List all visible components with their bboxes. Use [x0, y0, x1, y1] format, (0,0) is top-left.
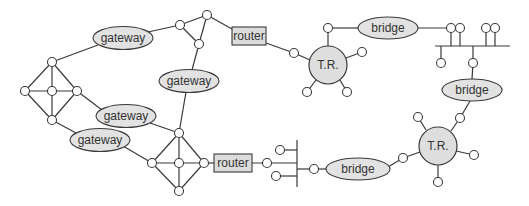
station [456, 114, 465, 123]
gateway-mid-left-label: gateway [104, 109, 149, 123]
station [399, 154, 408, 163]
node [48, 87, 57, 96]
bridge-top: bridge [358, 17, 418, 39]
token-ring-top-label: T.R. [317, 58, 338, 72]
gateway-mid-left: gateway [96, 105, 156, 128]
station [469, 59, 478, 68]
node [48, 58, 57, 67]
triangle-top [176, 11, 212, 49]
station [324, 24, 333, 33]
gateway-middle-label: gateway [167, 74, 212, 88]
gateway-middle: gateway [159, 70, 219, 93]
node [148, 159, 157, 168]
node [195, 40, 204, 49]
bridge-right-label: bridge [455, 83, 489, 97]
gateway-top-label: gateway [101, 31, 146, 45]
router-top-label: router [233, 29, 264, 43]
router-bottom: router [214, 154, 252, 172]
node [73, 87, 82, 96]
gateway-lower-left: gateway [70, 129, 130, 152]
router-bottom-label: router [217, 156, 248, 170]
bridge-top-label: bridge [371, 21, 405, 35]
station [414, 113, 423, 122]
station [437, 59, 446, 68]
station [272, 172, 281, 181]
token-ring-bottom-label: T.R. [427, 139, 448, 153]
node [176, 21, 185, 30]
node [175, 159, 184, 168]
mesh-left [21, 58, 82, 125]
station [434, 178, 443, 187]
station [290, 49, 299, 58]
station [491, 24, 500, 33]
node [48, 116, 57, 125]
node [200, 159, 209, 168]
router-top: router [232, 27, 266, 45]
station [303, 88, 312, 97]
gateway-lower-left-label: gateway [78, 133, 123, 147]
node [175, 129, 184, 138]
station [263, 159, 272, 168]
station [310, 165, 319, 174]
station [470, 151, 479, 160]
node [21, 87, 30, 96]
gateway-top: gateway [93, 27, 153, 50]
station [358, 48, 367, 57]
station [456, 24, 465, 33]
station [276, 146, 285, 155]
mesh-bottom [148, 129, 209, 196]
station [482, 24, 491, 33]
station [343, 88, 352, 97]
bridge-bottom: bridge [326, 158, 390, 180]
station [447, 24, 456, 33]
bridge-bottom-label: bridge [341, 162, 375, 176]
network-diagram: gateway gateway gateway gateway router r… [0, 0, 529, 206]
bridge-right: bridge [442, 79, 502, 101]
node [175, 187, 184, 196]
node [203, 11, 212, 20]
